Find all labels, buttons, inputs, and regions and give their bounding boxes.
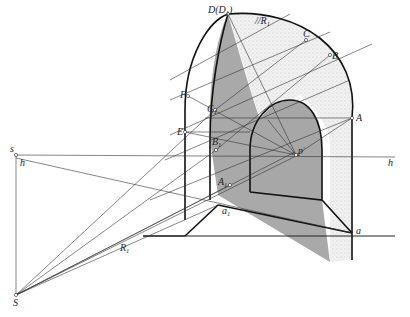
label-E: E <box>176 126 183 137</box>
label-D: D(D1) <box>207 4 233 16</box>
label-h-left: h <box>20 157 25 168</box>
label-F: F <box>179 89 187 100</box>
ray-S-p <box>16 152 295 295</box>
label-A: A <box>355 112 363 123</box>
label-a: a <box>356 225 361 236</box>
ray-S-a1 <box>16 205 218 295</box>
ray-S-B1 <box>16 150 216 295</box>
label-R1: R1 <box>119 242 129 254</box>
base-edge <box>185 205 218 236</box>
label-S: S <box>13 297 18 308</box>
label-C: C <box>303 28 310 39</box>
label-h-right: h <box>388 157 393 168</box>
label-s: s <box>10 143 14 154</box>
diagram-canvas: D(D1) //R1 C B A F C1 E B1 A1 a1 a p′ s … <box>0 0 410 317</box>
label-B: B <box>332 50 338 61</box>
ray-S-p2 <box>16 155 298 295</box>
